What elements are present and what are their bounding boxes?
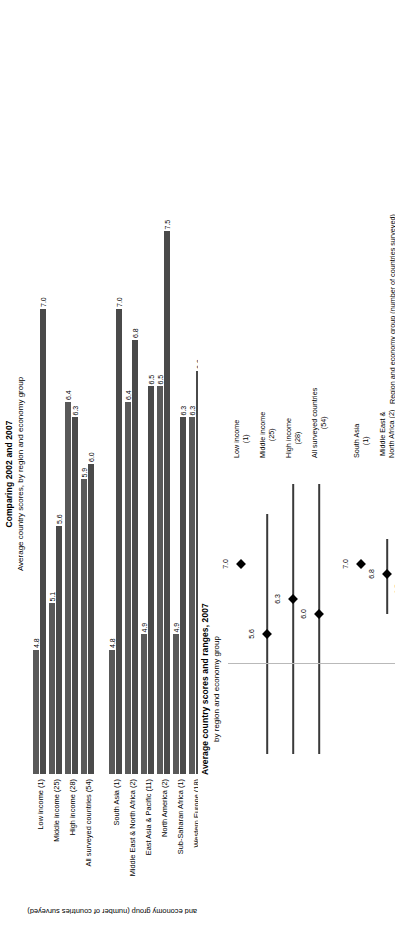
bar-row: All surveyed countries (54)5.96.0 [80,154,96,774]
dot-chart-subtitle: by region and economy group [211,454,222,924]
bar-2002 [81,480,87,775]
dot-chart: Average country scores and ranges, 2007 … [198,24,394,924]
dot-row: 6.8Middle East &North Africa (2) [374,464,395,864]
bar-2002 [33,650,39,774]
bar-value-2002: 6.5 [157,375,164,385]
dot-category-label: Low income(1) [232,420,250,458]
bar-2002 [65,402,71,774]
group-gap [332,464,348,864]
bar-value-2007: 7.0 [116,297,123,307]
range-line [292,484,294,754]
dot-chart-panel: Average country scores and ranges, 2007 … [198,24,395,924]
bar-category-label: Middle income (25) [52,779,61,842]
bar-value-2007: 6.8 [132,328,139,338]
mean-value-label: 6.8 [367,569,374,579]
bar-2002 [49,604,55,775]
bar-2007 [88,464,94,774]
bar-category-label: Middle East & North Africa (2) [128,779,137,876]
bar-category-label: Sub-Saharan Africa (1) [176,779,185,854]
bar-value-2002: 4.9 [173,623,180,633]
mean-marker [236,559,246,569]
dot-row: 6.0All surveyed countries(54) [306,464,332,864]
dot-category-label: Middle income(25) [258,412,276,458]
bar-2002 [173,635,179,775]
bar-chart-title: Comparing 2002 and 2007 [4,24,15,924]
mean-value-label: 6.3 [273,594,280,604]
group-gap [96,154,108,774]
bar-category-label: North America (2) [160,779,169,837]
bar-2002 [189,418,195,775]
dot-row: 6.3High income(28) [280,464,306,864]
bar-chart-ylabel: Region and economy group (number of coun… [43,907,223,916]
bar-value-2002: 4.9 [141,623,148,633]
bar-value-2002: 4.8 [33,638,40,648]
bar-value-2007: 5.6 [56,514,63,524]
mean-marker [262,629,272,639]
bar-value-2007: 7.0 [40,297,47,307]
reference-line [228,663,395,664]
bar-row: Sub-Saharan Africa (1)4.96.3 [172,154,188,774]
bar-value-2002: 6.4 [125,390,132,400]
mean-marker [356,559,366,569]
bar-chart: Comparing 2002 and 2007 Average country … [2,24,192,924]
dot-chart-ylabel: Region and economy group (number of coun… [388,214,395,404]
bar-chart-subtitle: Average country scores, by region and ec… [15,24,26,924]
bar-row: East Asia & Pacific (11)4.96.5 [140,154,156,774]
dot-chart-title: Average country scores and ranges, 2007 [200,454,211,924]
mean-value-label: 7.0 [221,559,228,569]
bar-value-2007: 6.3 [72,406,79,416]
bar-2007 [72,418,78,775]
mean-value-label: 5.6 [247,629,254,639]
dot-row: 7.0Low income(1) [228,464,254,864]
dot-row: 7.0South Asia(1) [348,464,374,864]
bar-row: South Asia (1)4.87.0 [108,154,124,774]
bar-value-2007: 7.5 [164,220,171,230]
bar-value-2007: 6.5 [148,375,155,385]
bar-value-2007: 6.3 [180,406,187,416]
mean-value-label: 6.0 [299,609,306,619]
bar-row: High income (28)6.46.3 [64,154,80,774]
bar-category-label: Low income (1) [36,779,45,830]
bar-row: North America (2)6.57.5 [156,154,172,774]
bar-2002 [125,402,131,774]
bar-chart-title-block: Comparing 2002 and 2007 Average country … [4,24,26,924]
mean-marker [314,609,324,619]
dot-row: 5.6Middle income(25) [254,464,280,864]
bar-category-label: South Asia (1) [112,779,121,825]
bar-2007 [116,309,122,774]
mean-marker [288,594,298,604]
dot-category-label: All surveyed countries(54) [310,388,328,458]
bar-row: Middle income (25)5.15.6 [48,154,64,774]
bar-2002 [157,387,163,775]
bar-value-2002: 6.4 [65,390,72,400]
bar-value-2002: 4.8 [109,638,116,648]
bar-2007 [148,387,154,775]
bar-2007 [40,309,46,774]
dot-chart-plot-area: 7.0Low income(1)5.6Middle income(25)6.3H… [228,464,395,864]
bar-2007 [164,232,170,775]
bar-category-label: All surveyed countries (54) [84,779,93,867]
bar-category-label: East Asia & Pacific (11) [144,779,153,855]
bar-2007 [180,418,186,775]
bar-category-label: High income (28) [68,779,77,835]
bar-2002 [109,650,115,774]
scanned-chart-page: Comparing 2002 and 2007 Average country … [0,0,395,926]
bar-value-2002: 5.1 [49,592,56,602]
bar-value-2002: 6.3 [189,406,196,416]
dot-chart-title-block: Average country scores and ranges, 2007 … [200,454,222,924]
bar-2002 [141,635,147,775]
mean-marker [382,569,392,579]
bar-value-2007: 6.0 [88,452,95,462]
bar-value-2002: 5.9 [81,468,88,478]
bar-row: Low income (1)4.87.0 [32,154,48,774]
dot-category-label: High income(28) [284,418,302,458]
dot-category-label: South Asia(1) [352,424,370,458]
dot-category-label: Middle East &North Africa (2) [378,410,395,458]
bar-2007 [132,340,138,774]
bar-row: Middle East & North Africa (2)6.46.8 [124,154,140,774]
bar-2007 [56,526,62,774]
mean-value-label: 7.0 [341,559,348,569]
